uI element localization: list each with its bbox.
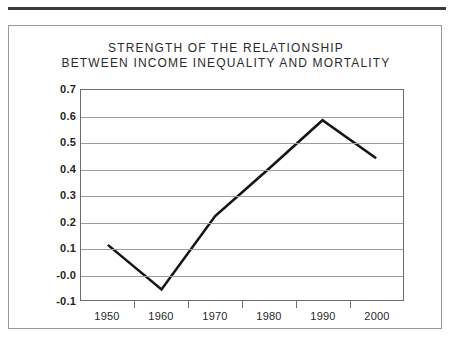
data-series-line bbox=[108, 120, 376, 289]
figure-page: STRENGTH OF THE RELATIONSHIP BETWEEN INC… bbox=[0, 0, 454, 346]
top-rule-divider bbox=[8, 7, 446, 10]
x-axis-tick-label: 1950 bbox=[77, 310, 137, 322]
gridline bbox=[81, 196, 403, 197]
x-axis-tick bbox=[188, 301, 189, 308]
chart-title-line-2: BETWEEN INCOME INEQUALITY AND MORTALITY bbox=[9, 56, 443, 71]
gridline bbox=[81, 143, 403, 144]
y-axis-tick-label: 0.6 bbox=[38, 110, 76, 122]
y-axis-tick-label: 0.5 bbox=[38, 136, 76, 148]
y-axis-tick-labels: 0.70.60.50.40.30.20.1-0.0-0.1 bbox=[34, 89, 76, 301]
y-axis-tick-label: 0.2 bbox=[38, 216, 76, 228]
gridline bbox=[81, 249, 403, 250]
y-axis-tick-label: 0.3 bbox=[38, 189, 76, 201]
x-axis-ticks bbox=[80, 301, 404, 308]
gridline bbox=[81, 223, 403, 224]
data-line-svg bbox=[81, 90, 403, 300]
gridline bbox=[81, 117, 403, 118]
x-axis-tick bbox=[350, 301, 351, 308]
gridline bbox=[81, 170, 403, 171]
chart-title: STRENGTH OF THE RELATIONSHIP BETWEEN INC… bbox=[9, 41, 443, 71]
x-axis-tick bbox=[296, 301, 297, 308]
x-axis-tick-label: 1990 bbox=[293, 310, 353, 322]
figure-container: STRENGTH OF THE RELATIONSHIP BETWEEN INC… bbox=[8, 25, 442, 329]
x-axis-tick-label: 1970 bbox=[185, 310, 245, 322]
x-axis-tick-label: 2000 bbox=[347, 310, 407, 322]
x-axis-tick bbox=[134, 301, 135, 308]
x-axis-tick bbox=[242, 301, 243, 308]
y-axis-tick-label: 0.4 bbox=[38, 163, 76, 175]
y-axis-tick-label: -0.0 bbox=[38, 269, 76, 281]
gridline bbox=[81, 276, 403, 277]
chart-title-line-1: STRENGTH OF THE RELATIONSHIP bbox=[9, 41, 443, 56]
plot-area bbox=[80, 89, 404, 301]
y-axis-tick-label: -0.1 bbox=[38, 295, 76, 307]
y-axis-tick-label: 0.7 bbox=[38, 83, 76, 95]
x-axis-tick-labels: 195019601970198019902000 bbox=[80, 310, 404, 326]
x-axis-tick-label: 1960 bbox=[131, 310, 191, 322]
x-axis-tick-label: 1980 bbox=[239, 310, 299, 322]
y-axis-tick-label: 0.1 bbox=[38, 242, 76, 254]
